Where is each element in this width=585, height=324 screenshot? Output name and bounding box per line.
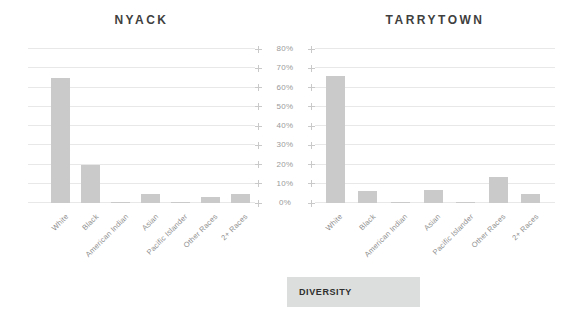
y-tick-label: 20% <box>277 161 294 169</box>
x-axis-labels: WhiteBlackAmerican IndianAsianPacific Is… <box>315 203 555 265</box>
gridline-50pct <box>315 106 555 107</box>
gridline-70pct <box>28 67 255 68</box>
plus-tick-marker-icon <box>255 161 262 168</box>
bar-american-indian <box>391 202 410 203</box>
chart-title-nyack: NYACK <box>28 13 255 27</box>
chart-title-tarrytown: TARRYTOWN <box>315 13 555 27</box>
y-tick-row-0pct: 0% <box>255 199 315 207</box>
x-label-black: Black <box>357 212 377 232</box>
plus-tick-marker-icon <box>255 123 262 130</box>
y-tick-row-40pct: 40% <box>255 122 315 130</box>
diversity-label[interactable]: DIVERSITY <box>287 277 420 307</box>
gridline-20pct <box>315 164 555 165</box>
x-label-black: Black <box>80 212 100 232</box>
gridline-60pct <box>315 87 555 88</box>
gridline-80pct <box>28 48 255 49</box>
gridline-40pct <box>315 125 555 126</box>
plus-tick-marker-icon <box>255 103 262 110</box>
diversity-label-text: DIVERSITY <box>299 287 352 297</box>
x-label-other-races: Other Races <box>182 212 220 250</box>
y-tick-label: 40% <box>277 122 294 130</box>
plus-tick-marker-icon <box>308 65 315 72</box>
plus-tick-marker-icon <box>308 103 315 110</box>
bar-black <box>81 165 100 204</box>
y-tick-row-30pct: 30% <box>255 141 315 149</box>
plus-tick-marker-icon <box>255 180 262 187</box>
gridline-80pct <box>315 48 555 49</box>
x-label-white: White <box>50 212 71 233</box>
y-tick-label: 0% <box>279 199 291 207</box>
x-label-pacific-islander: Pacific Islander <box>145 212 190 257</box>
plus-tick-marker-icon <box>255 84 262 91</box>
x-label-american-indian: American Indian <box>83 212 130 259</box>
x-label-asian: Asian <box>422 212 442 232</box>
y-tick-row-10pct: 10% <box>255 180 315 188</box>
plus-tick-marker-icon <box>308 123 315 130</box>
x-label-asian: Asian <box>140 212 160 232</box>
bar-asian <box>141 194 160 203</box>
plus-tick-marker-icon <box>308 46 315 53</box>
bar-pacific-islander <box>456 202 475 203</box>
plus-tick-marker-icon <box>255 65 262 72</box>
x-label-american-indian: American Indian <box>363 212 410 259</box>
bar-black <box>358 191 377 203</box>
y-axis: 80%70%60%50%40%30%20%10%0% <box>255 49 315 203</box>
tarrytown-chart: WhiteBlackAmerican IndianAsianPacific Is… <box>315 49 555 203</box>
y-tick-label: 30% <box>277 141 294 149</box>
bar-american-indian <box>111 202 130 203</box>
y-tick-row-70pct: 70% <box>255 64 315 72</box>
x-label-2plus-races: 2+ Races <box>510 212 540 242</box>
gridline-30pct <box>315 144 555 145</box>
y-tick-label: 60% <box>277 84 294 92</box>
y-tick-row-80pct: 80% <box>255 45 315 53</box>
gridline-10pct <box>315 183 555 184</box>
plus-tick-marker-icon <box>308 142 315 149</box>
plus-tick-marker-icon <box>255 142 262 149</box>
plus-tick-marker-icon <box>308 161 315 168</box>
plus-tick-marker-icon <box>308 84 315 91</box>
y-tick-label: 80% <box>277 45 294 53</box>
bar-other-races <box>201 197 220 203</box>
y-tick-row-50pct: 50% <box>255 103 315 111</box>
y-tick-label: 70% <box>277 64 294 72</box>
plus-tick-marker-icon <box>308 200 315 207</box>
nyack-chart: WhiteBlackAmerican IndianAsianPacific Is… <box>28 49 255 203</box>
bar-2plus-races <box>231 194 250 203</box>
plus-tick-marker-icon <box>255 200 262 207</box>
x-label-2plus-races: 2+ Races <box>219 212 249 242</box>
bar-other-races <box>489 177 508 203</box>
plus-tick-marker-icon <box>255 46 262 53</box>
plus-tick-marker-icon <box>308 180 315 187</box>
x-label-white: White <box>324 212 345 233</box>
x-label-other-races: Other Races <box>470 212 508 250</box>
bar-pacific-islander <box>171 202 190 203</box>
x-axis-labels: WhiteBlackAmerican IndianAsianPacific Is… <box>28 203 255 265</box>
y-tick-row-20pct: 20% <box>255 161 315 169</box>
y-tick-label: 50% <box>277 103 294 111</box>
y-tick-label: 10% <box>277 180 294 188</box>
diversity-comparison-page: NYACK TARRYTOWN WhiteBlackAmerican India… <box>0 0 585 324</box>
gridline-70pct <box>315 67 555 68</box>
y-tick-row-60pct: 60% <box>255 84 315 92</box>
bar-white <box>326 76 345 203</box>
bar-white <box>51 78 70 203</box>
bar-asian <box>424 190 443 203</box>
bar-2plus-races <box>521 194 540 203</box>
x-label-pacific-islander: Pacific Islander <box>430 212 475 257</box>
